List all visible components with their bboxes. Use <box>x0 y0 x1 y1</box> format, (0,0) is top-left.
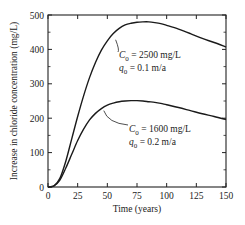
x-tick-label: 150 <box>219 191 234 201</box>
y-tick-label: 500 <box>30 11 45 21</box>
annotation-text: C0 = 2500 mg/L <box>119 50 181 63</box>
x-tick-label: 125 <box>189 191 204 201</box>
y-axis-ticks: 0100200300400500 <box>30 11 226 193</box>
y-tick-label: 100 <box>30 148 45 158</box>
line-chart: 0100200300400500 0255075100125150 C0 = 2… <box>0 0 245 225</box>
curve-series-1 <box>48 22 226 187</box>
annotation-text: q0 = 0.1 m/a <box>119 63 167 76</box>
curve-annotations: C0 = 2500 mg/Lq0 = 0.1 m/aC0 = 1600 mg/L… <box>104 40 191 150</box>
x-axis-ticks: 0255075100125150 <box>46 15 234 201</box>
x-tick-label: 50 <box>103 191 113 201</box>
x-tick-label: 100 <box>160 191 175 201</box>
data-curves <box>48 22 226 187</box>
y-axis-label: Increase in chloride concentration (mg/L… <box>9 22 20 180</box>
y-tick-label: 300 <box>30 79 45 89</box>
annotation-text: q0 = 0.2 m/a <box>129 137 177 150</box>
x-tick-label: 25 <box>73 191 83 201</box>
x-tick-label: 75 <box>132 191 142 201</box>
y-tick-label: 200 <box>30 114 45 124</box>
annotation-text: C0 = 1600 mg/L <box>129 124 191 137</box>
annotation-leader-line <box>104 111 128 125</box>
y-tick-label: 0 <box>39 183 44 193</box>
y-tick-label: 400 <box>30 45 45 55</box>
x-tick-label: 0 <box>46 191 51 201</box>
x-axis-label: Time (years) <box>113 204 161 215</box>
